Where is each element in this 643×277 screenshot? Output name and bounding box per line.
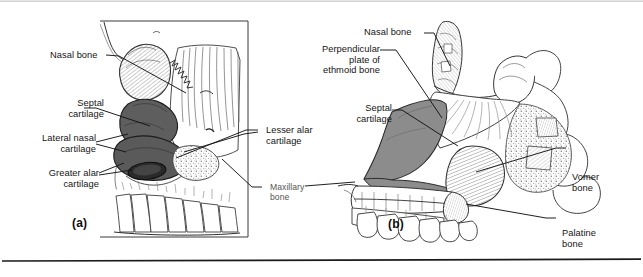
label-a-lesser-alar-cartilage: Lesser alar cartilage: [266, 125, 313, 146]
label-b-perpendicular-plate: Perpendicular plate of ethmoid bone: [282, 44, 380, 76]
label-a-maxillary-bone: Maxillary bone: [270, 182, 304, 202]
bottom-rule: [2, 259, 641, 261]
anatomy-figure: Nasal bone Septal cartilage Lateral nasa…: [0, 0, 643, 277]
figure-artwork: [0, 0, 643, 277]
label-b-palatine-bone: Palatine bone: [562, 228, 596, 249]
maxilla-a: [170, 45, 240, 158]
label-b-vomer-bone: Vomer bone: [572, 172, 599, 193]
label-b-nasal-bone: Nasal bone: [364, 27, 412, 38]
label-a-lateral-nasal-cartilage: Lateral nasal cartilage: [0, 133, 96, 154]
label-a-greater-alar-cartilage: Greater alar cartilage: [0, 168, 99, 189]
label-b-septal-cartilage: Septal cartilage: [300, 103, 392, 124]
label-a-septal-cartilage: Septal cartilage: [0, 98, 104, 119]
label-a-nasal-bone: Nasal bone: [50, 50, 98, 61]
panel-a-caption: (a): [72, 216, 87, 230]
panel-b-caption: (b): [388, 217, 404, 231]
